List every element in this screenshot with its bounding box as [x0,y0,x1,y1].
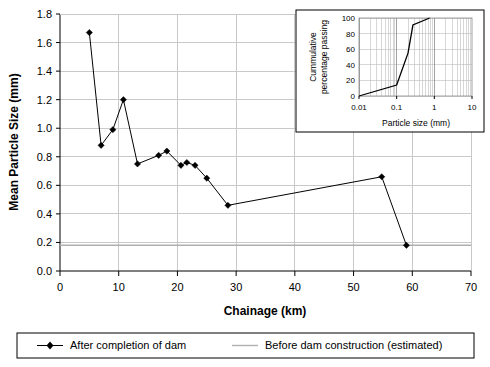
inset-y-axis-title-line1: Cummulative [308,32,318,82]
x-tick-label: 40 [289,281,301,293]
inset-y-axis-title-line2: percentage passing [319,20,329,94]
y-tick-label: 1.6 [37,37,52,49]
inset-x-tick-label: 0.01 [351,103,367,112]
inset-y-tick-label: 60 [346,45,355,54]
y-axis-title: Mean Particle Size (mm) [7,73,21,210]
inset-x-axis-title: Particle size (mm) [382,118,450,128]
inset-y-tick-label: 40 [346,61,355,70]
legend-label-after-dam: After completion of dam [70,339,186,351]
inset-chart: 020406080100 0.010.1110 Cummulative perc… [296,10,484,132]
chart-legend: After completion of dam Before dam const… [17,333,474,358]
x-tick-label: 10 [113,281,125,293]
x-tick-label: 30 [230,281,242,293]
y-tick-label: 1.2 [37,94,52,106]
inset-y-tick-label: 0 [351,92,356,101]
y-tick-label: 0.4 [37,208,52,220]
y-tick-label: 0.0 [37,265,52,277]
y-tick-label: 0.2 [37,236,52,248]
x-tick-label: 0 [57,281,63,293]
x-tick-label: 50 [347,281,359,293]
chart-figure: 0.00.20.40.60.81.01.21.41.61.8 010203040… [0,0,490,367]
y-tick-label: 0.6 [37,179,52,191]
inset-x-tick-label: 10 [468,103,477,112]
inset-y-tick-label: 80 [346,30,355,39]
y-tick-label: 1.8 [37,8,52,20]
inset-y-tick-label: 100 [342,14,356,23]
x-tick-label: 60 [406,281,418,293]
inset-y-tick-label: 20 [346,76,355,85]
x-axis-title: Chainage (km) [224,304,307,318]
x-tick-label: 70 [465,281,477,293]
y-tick-label: 0.8 [37,151,52,163]
chart-svg: 0.00.20.40.60.81.01.21.41.61.8 010203040… [0,0,490,367]
inset-x-tick-label: 1 [432,103,437,112]
legend-label-before-dam: Before dam construction (estimated) [265,339,442,351]
x-tick-label: 20 [171,281,183,293]
inset-x-tick-label: 0.1 [391,103,403,112]
y-tick-label: 1.0 [37,122,52,134]
y-tick-label: 1.4 [37,65,52,77]
